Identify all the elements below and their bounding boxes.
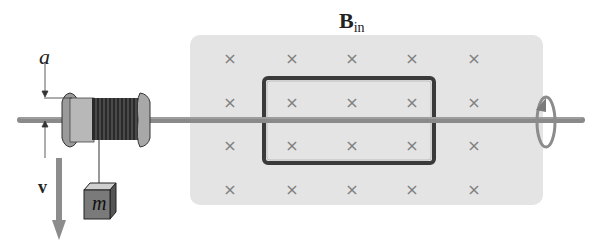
svg-text:×: × [285, 49, 298, 68]
svg-text:×: × [467, 49, 480, 68]
radius-label: a [39, 44, 50, 70]
svg-text:×: × [345, 136, 358, 155]
field-label: Bin [339, 8, 365, 36]
diagram-svg: ××××× ××××× ××××× ××××× [0, 0, 605, 248]
svg-text:×: × [467, 180, 480, 199]
svg-text:×: × [223, 93, 236, 112]
velocity-label: v [38, 177, 47, 198]
svg-text:×: × [405, 180, 418, 199]
svg-text:×: × [285, 93, 298, 112]
diagram-canvas: ××××× ××××× ××××× ××××× [0, 0, 605, 248]
svg-text:×: × [405, 49, 418, 68]
svg-text:×: × [345, 180, 358, 199]
svg-text:×: × [345, 49, 358, 68]
svg-text:×: × [223, 49, 236, 68]
svg-text:×: × [285, 136, 298, 155]
spool [62, 93, 150, 147]
svg-text:×: × [345, 93, 358, 112]
svg-text:×: × [405, 136, 418, 155]
svg-text:×: × [405, 93, 418, 112]
svg-text:×: × [223, 180, 236, 199]
svg-text:×: × [285, 180, 298, 199]
mass-label: m [92, 192, 106, 215]
svg-text:×: × [467, 93, 480, 112]
coil-windings [92, 98, 138, 140]
svg-text:×: × [223, 136, 236, 155]
svg-text:×: × [467, 136, 480, 155]
velocity-arrow [52, 158, 66, 240]
